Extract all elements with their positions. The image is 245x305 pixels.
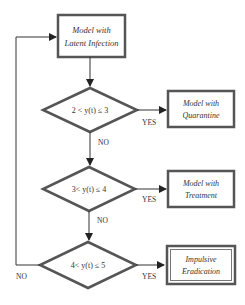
decision-cond2: 3< y(t) ≤ 4 [43, 167, 135, 211]
node-impulsive-eradication: Impulsive Eradication [167, 246, 235, 284]
node-quarantine-line2: Quarantine [183, 111, 220, 120]
decision-cond2-text: 3< y(t) ≤ 4 [72, 185, 106, 194]
node-treatment: Model with Treatment [168, 171, 234, 207]
node-eradication-line2: Eradication [181, 267, 220, 276]
arrow-cond3-no-feedback [16, 37, 56, 265]
edge-label-yes2: YES [142, 195, 156, 204]
node-quarantine-line1: Model with [182, 99, 219, 108]
decision-cond3-text: 4< y(t) ≤ 5 [71, 261, 105, 270]
node-treatment-line2: Treatment [185, 191, 218, 200]
edge-label-no3: NO [16, 272, 27, 281]
flowchart: Model with Latent Infection 2 < y(t) ≤ 3… [0, 0, 245, 305]
edge-label-no1: NO [98, 138, 109, 147]
decision-cond3: 4< y(t) ≤ 5 [40, 242, 136, 288]
decision-cond1: 2 < y(t) ≤ 3 [43, 88, 137, 132]
edge-label-yes3: YES [142, 272, 156, 281]
decision-cond1-text: 2 < y(t) ≤ 3 [72, 106, 108, 115]
edge-label-yes1: YES [142, 118, 156, 127]
node-quarantine: Model with Quarantine [168, 91, 234, 127]
node-eradication-line1: Impulsive [184, 255, 217, 264]
node-latent-line1: Model with [71, 25, 110, 35]
node-latent-line2: Latent Infection [63, 38, 118, 48]
node-latent-infection: Model with Latent Infection [58, 15, 125, 57]
edge-label-no2: NO [97, 216, 108, 225]
node-treatment-line1: Model with [182, 179, 219, 188]
